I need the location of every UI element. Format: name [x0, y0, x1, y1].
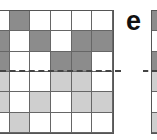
grid-cell [92, 31, 113, 51]
grid-cell [30, 11, 51, 31]
grid-cell [152, 72, 157, 92]
grid-cell [51, 31, 72, 51]
grid-cell [30, 113, 51, 133]
grid-cell [92, 92, 113, 112]
grid-cell [30, 31, 51, 51]
grid-cell [51, 113, 72, 133]
grid-cell [10, 31, 31, 51]
grid-cell [72, 52, 93, 72]
grid-cell [30, 72, 51, 92]
grid-cell [0, 72, 10, 92]
grid-cell [92, 72, 113, 92]
grid-cell [72, 72, 93, 92]
dashed-divider-left [0, 70, 121, 72]
grid-cell [51, 72, 72, 92]
grid-cell [152, 113, 157, 133]
grid-cell [0, 31, 10, 51]
grid-cell [10, 92, 31, 112]
grid-cell [10, 113, 31, 133]
grid-cell [72, 31, 93, 51]
grid-cell [152, 31, 157, 51]
grid-cell [72, 92, 93, 112]
right-shaded-grid [151, 10, 157, 134]
grid-cell [152, 52, 157, 72]
panel-label: e [126, 8, 141, 35]
grid-cell [10, 52, 31, 72]
left-shaded-grid [0, 10, 114, 134]
grid-cell [152, 11, 157, 31]
grid-cell [0, 11, 10, 31]
grid-cell [0, 52, 10, 72]
grid-cell [92, 52, 113, 72]
grid-cell [10, 11, 31, 31]
grid-cell [72, 113, 93, 133]
grid-cell [72, 11, 93, 31]
grid-cell [10, 72, 31, 92]
grid-cell [92, 11, 113, 31]
grid-cell [152, 92, 157, 112]
grid-cell [0, 113, 10, 133]
grid-cell [30, 92, 51, 112]
grid-cell [51, 11, 72, 31]
dashed-divider-right [143, 70, 157, 72]
grid-cell [0, 92, 10, 112]
grid-cell [92, 113, 113, 133]
grid-cell [51, 92, 72, 112]
grid-cell [51, 52, 72, 72]
grid-cell [30, 52, 51, 72]
